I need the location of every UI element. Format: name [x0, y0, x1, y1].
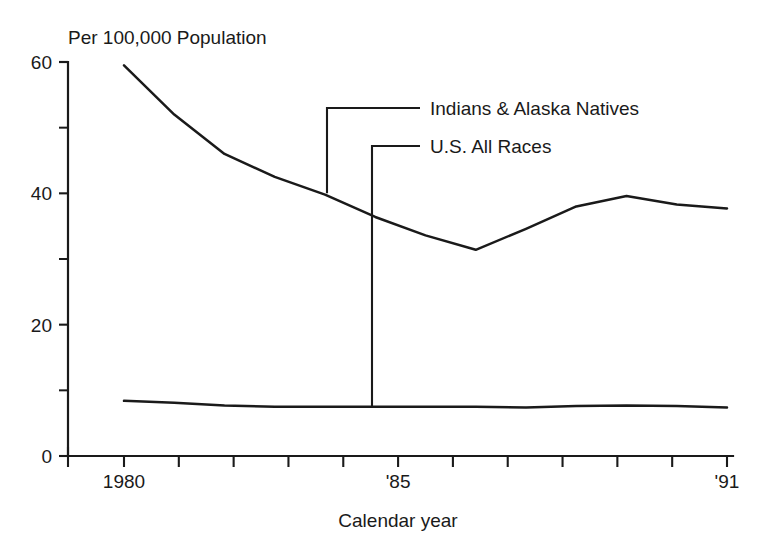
x-axis-tick-label: 1980: [103, 471, 145, 492]
x-axis-title: Calendar year: [338, 510, 458, 531]
x-axis-tick-label: '85: [386, 471, 411, 492]
series-label-1: Indians & Alaska Natives: [430, 98, 639, 119]
y-axis-tick-label: 0: [41, 446, 52, 467]
y-axis-tick-label: 60: [31, 52, 52, 73]
chart-unit-label: Per 100,000 Population: [68, 27, 267, 48]
axes-group: [68, 62, 733, 456]
data-series-line-2: [124, 401, 727, 408]
series-leader-line-2: [372, 146, 420, 407]
line-chart: Per 100,000 Population 0204060 1980'85'9…: [0, 0, 757, 553]
y-axis-tick-labels: 0204060: [31, 52, 52, 467]
x-axis-tick-labels: 1980'85'91: [103, 471, 740, 492]
y-axis-ticks: [59, 62, 68, 456]
series-annotations-group: Indians & Alaska NativesU.S. All Races: [327, 98, 639, 407]
series-label-2: U.S. All Races: [430, 136, 551, 157]
series-leader-line-1: [327, 108, 420, 193]
y-axis-tick-label: 40: [31, 183, 52, 204]
y-axis-tick-label: 20: [31, 315, 52, 336]
chart-figure: Per 100,000 Population 0204060 1980'85'9…: [0, 0, 757, 553]
x-axis-tick-label: '91: [715, 471, 740, 492]
data-series-line-1: [124, 65, 727, 250]
